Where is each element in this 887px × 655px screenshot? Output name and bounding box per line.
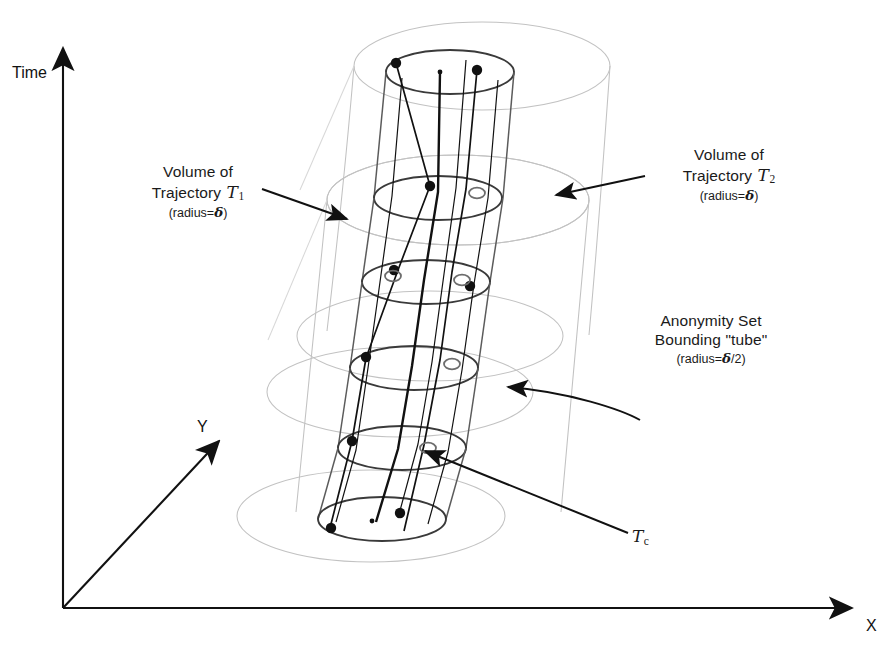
tau-c-symbol: Tc xyxy=(632,526,649,546)
figure-canvas: Time Y X Volume of Trajectory T1 (radius… xyxy=(0,0,887,655)
trajectory-c-path xyxy=(376,72,440,522)
annotation-tau-c: Tc xyxy=(632,526,649,547)
anonymity-bounding-tube-group xyxy=(318,50,514,541)
volume-guide-left-upper xyxy=(300,66,354,190)
volume-t2-line2: Trajectory xyxy=(683,167,752,184)
sample-dot-hollow xyxy=(444,359,460,370)
tube-ellipse-5 xyxy=(338,426,466,470)
volume-t1-line2: Trajectory xyxy=(152,184,221,201)
volume-t2-radius: (radius=δ) xyxy=(654,188,804,204)
y-axis xyxy=(63,441,219,608)
anonymity-set-line2: Bounding "tube" xyxy=(655,331,767,348)
annotation-anonymity-set: Anonymity Set Bounding "tube" (radius=δ/… xyxy=(616,312,806,367)
volume-t1-symbol: T1 xyxy=(221,182,244,202)
volume-trajectory-2 xyxy=(297,22,610,381)
trajectory-strand-c xyxy=(398,60,466,518)
sample-dot-hollow xyxy=(469,188,485,199)
volume-t2-line1: Volume of xyxy=(694,146,764,163)
sample-dot-filled xyxy=(472,65,482,75)
sample-dot-filled xyxy=(425,181,435,191)
sample-dot-filled xyxy=(361,352,371,362)
volume-1-side-right xyxy=(561,200,589,512)
volume-2-side-left xyxy=(327,66,354,331)
volume-t1-line1: Volume of xyxy=(163,163,233,180)
sample-dot-filled xyxy=(391,58,401,68)
tube-ellipse-1 xyxy=(386,50,514,94)
sample-dot-hollow xyxy=(454,275,470,286)
leader-anonymity-set xyxy=(508,387,640,420)
volume-guide-left-lower xyxy=(268,200,327,340)
volume-1-mid-ellipse xyxy=(267,347,533,437)
volume-1-side-left xyxy=(296,200,327,512)
annotation-volume-t1: Volume of Trajectory T1 (radius=δ) xyxy=(128,163,268,221)
volume-t1-radius: (radius=δ) xyxy=(128,205,268,221)
annotation-volume-t2: Volume of Trajectory T2 (radius=δ) xyxy=(654,146,804,204)
tube-wall-1-right xyxy=(503,72,514,198)
sample-dot-filled xyxy=(326,523,336,533)
volume-t2-symbol: T2 xyxy=(752,165,775,185)
trajectory-endpoint xyxy=(370,519,375,524)
leader-volume-t1 xyxy=(262,189,347,219)
volume-2-side-right xyxy=(589,66,610,335)
trajectory-lines-group xyxy=(330,60,498,531)
volume-1-bottom-ellipse xyxy=(237,470,505,562)
sample-dot-filled xyxy=(347,436,357,446)
trajectory-endpoint xyxy=(438,70,443,75)
y-axis-label: Y xyxy=(197,418,208,436)
tube-wall-5-right xyxy=(446,448,466,519)
leader-tau-c xyxy=(425,451,628,533)
time-axis-label: Time xyxy=(12,64,47,82)
anonymity-set-line1: Anonymity Set xyxy=(660,312,761,329)
anonymity-set-radius: (radius=δ/2) xyxy=(616,351,806,367)
x-axis-label: X xyxy=(866,617,877,635)
sample-dot-filled xyxy=(395,508,405,518)
